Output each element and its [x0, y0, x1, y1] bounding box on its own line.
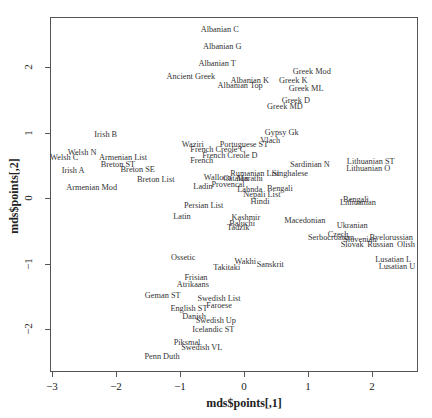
x-axis-label: mds$points[,1]	[206, 396, 282, 411]
x-tick	[116, 372, 117, 377]
x-tick	[180, 372, 181, 377]
y-axis-label: mds$points[,2]	[7, 158, 22, 234]
point-label: Ancient Greek	[167, 73, 216, 81]
point-label: Swedish Up	[196, 317, 236, 325]
point-label: Irish B	[94, 131, 117, 139]
x-tick-label: 2	[369, 380, 375, 392]
point-label: Lithuanian	[340, 199, 376, 207]
y-tick-label: 0	[22, 195, 34, 201]
y-tick-label: 2	[22, 64, 34, 70]
point-label: Russian	[367, 241, 393, 249]
point-label: Albanian C	[201, 26, 239, 34]
point-label: Albanian T	[198, 60, 235, 68]
point-label: Lusatian U	[379, 263, 416, 271]
point-label: Greek MD	[267, 103, 303, 111]
x-tick-label: 1	[305, 380, 311, 392]
point-label: Sanskrit	[257, 261, 284, 269]
point-label: Irish A	[62, 167, 85, 175]
y-tick	[45, 67, 50, 68]
point-label: Faroese	[206, 302, 232, 310]
x-tick	[372, 372, 373, 377]
point-label: Olish	[397, 241, 415, 249]
x-tick-label: −1	[174, 380, 186, 392]
point-label: Penn Duth	[144, 353, 179, 361]
y-tick-label: 1	[22, 130, 34, 136]
point-label: Greek Mod	[293, 68, 331, 76]
y-tick	[45, 329, 50, 330]
point-label: Swedish VL	[181, 344, 222, 352]
y-tick	[45, 198, 50, 199]
y-tick-label: −2	[22, 323, 34, 335]
point-label: Geman ST	[145, 292, 181, 300]
point-label: Icelandic ST	[192, 326, 234, 334]
point-label: French	[190, 157, 213, 165]
x-tick-label: −3	[46, 380, 58, 392]
point-label: Atrikaans	[177, 281, 209, 289]
point-label: Ossetic	[171, 254, 195, 262]
point-label: Hindi	[251, 198, 270, 206]
point-label: Lithuanian O	[346, 165, 390, 173]
point-label: Takitaki	[213, 264, 240, 272]
point-label: Slovak	[341, 241, 364, 249]
point-label: Latin	[173, 213, 191, 221]
point-label: Albanian Top	[218, 82, 263, 90]
x-tick	[52, 372, 53, 377]
point-label: Persian List	[184, 202, 223, 210]
point-label: Armenian Mod	[66, 184, 117, 192]
point-label: Macedonian	[284, 217, 325, 225]
point-label: Welsh C	[50, 154, 78, 162]
y-tick-label: −1	[22, 258, 34, 270]
point-label: Greek ML	[289, 85, 324, 93]
x-tick-label: 0	[241, 380, 247, 392]
y-tick	[45, 133, 50, 134]
point-label: Breton SE	[121, 166, 155, 174]
x-tick-label: −2	[110, 380, 122, 392]
y-tick	[45, 264, 50, 265]
point-label: Ladin	[193, 183, 212, 191]
point-label: Breton List	[137, 176, 175, 184]
point-label: Rumanian List	[230, 170, 279, 178]
point-label: Albanian G	[203, 43, 241, 51]
x-tick	[244, 372, 245, 377]
point-label: Tadzik	[227, 224, 249, 232]
x-tick	[308, 372, 309, 377]
